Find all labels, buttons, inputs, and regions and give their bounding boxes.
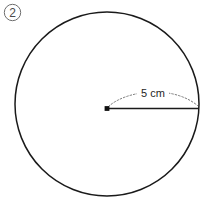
dimension-label-text: 5 cm: [141, 87, 165, 99]
item-number-label: 2: [9, 6, 16, 20]
circle-radius-diagram: 2 5 cm: [0, 0, 203, 200]
center-dot: [105, 106, 110, 111]
background: [0, 0, 203, 200]
figure-canvas: 2 5 cm: [0, 0, 203, 200]
